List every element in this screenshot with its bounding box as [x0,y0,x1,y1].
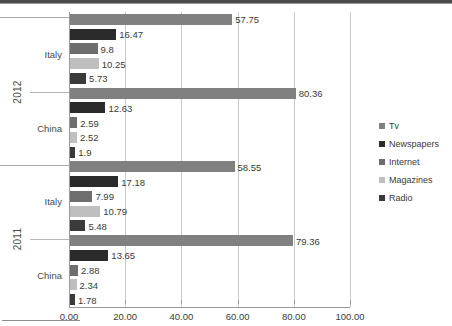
bar-value-label: 16.47 [119,29,143,40]
bar-2012-china-tv [70,88,296,99]
bar-2011-china-radio [70,294,75,305]
bar-chart: 2012ItalyChina2011ItalyChina 57.7516.479… [0,5,452,323]
year-group-2011: 2011 [0,165,69,314]
country-axis-label-china: China [37,270,62,281]
bar-2012-china-newspapers [70,102,105,113]
gridline [238,12,239,307]
bar-2012-italy-internet [70,43,98,54]
bar-value-label: 2.52 [80,132,99,143]
bar-2011-china-newspapers [70,250,108,261]
category-axis: 2012ItalyChina2011ItalyChina [0,17,69,312]
bar-value-label: 57.75 [235,14,259,25]
x-tick-label: 80.00 [282,311,306,322]
bar-value-label: 12.63 [108,102,132,113]
bar-value-label: 9.8 [101,43,114,54]
legend-label: Tv [389,121,399,131]
bar-2011-china-internet [70,265,78,276]
country-divider [30,92,69,93]
gridline [294,12,295,307]
x-tick-label: 100.00 [335,311,364,322]
country-axis-label-italy: Italy [45,196,62,207]
legend-swatch-icon [379,177,385,183]
bar-2011-italy-magazines [70,206,100,217]
country-axis-label-italy: Italy [45,48,62,59]
bar-value-label: 79.36 [296,235,320,246]
bar-value-label: 5.73 [89,73,108,84]
bar-2012-italy-newspapers [70,29,116,40]
bar-2012-italy-radio [70,73,86,84]
bar-value-label: 2.59 [80,117,99,128]
x-tick-mark [238,300,239,304]
bar-value-label: 1.9 [78,147,91,158]
legend-swatch-icon [379,141,385,147]
bar-2012-china-internet [70,117,77,128]
bar-2012-italy-tv [70,14,232,25]
bar-2011-italy-radio [70,220,85,231]
bar-value-label: 10.79 [103,206,127,217]
year-group-2012: 2012 [0,17,69,166]
bar-2012-china-radio [70,147,75,158]
legend-swatch-icon [379,159,385,165]
bar-2011-italy-tv [70,161,235,172]
legend-item-newspapers[interactable]: Newspapers [379,139,449,149]
bar-2011-italy-internet [70,191,92,202]
legend-item-radio[interactable]: Radio [379,193,449,203]
legend-item-internet[interactable]: Internet [379,157,449,167]
legend-item-magazines[interactable]: Magazines [379,175,449,185]
x-tick-mark [69,300,70,304]
legend-swatch-icon [379,195,385,201]
top-border-rule-secondary [0,3,452,4]
bar-value-label: 13.65 [111,250,135,261]
value-axis-line [69,12,70,307]
bar-2012-china-magazines [70,132,77,143]
gridline [350,12,351,307]
bar-value-label: 17.18 [121,176,145,187]
legend-label: Newspapers [389,139,439,149]
legend-label: Internet [389,157,420,167]
legend-label: Radio [389,193,413,203]
x-tick-label: 20.00 [113,311,137,322]
bar-value-label: 2.34 [80,279,99,290]
x-tick-label: 60.00 [226,311,250,322]
bar-2011-china-tv [70,235,293,246]
legend-label: Magazines [389,175,433,185]
country-axis-label-china: China [37,122,62,133]
legend-swatch-icon [379,123,385,129]
x-tick-label: 0.00 [60,311,79,322]
bar-value-label: 7.99 [95,191,114,202]
category-axis-line [69,307,350,308]
bar-value-label: 2.88 [81,265,100,276]
bar-2012-italy-magazines [70,58,99,69]
chart-legend: TvNewspapersInternetMagazinesRadio [379,121,449,211]
bar-value-label: 58.55 [238,161,262,172]
gridline [181,12,182,307]
bar-value-label: 80.36 [299,88,323,99]
year-axis-label: 2012 [12,80,23,103]
bar-2011-italy-newspapers [70,176,118,187]
x-tick-mark [181,300,182,304]
bar-value-label: 10.25 [102,58,126,69]
x-tick-mark [294,300,295,304]
bar-2011-china-magazines [70,279,77,290]
plot-area: 57.7516.479.810.255.7380.3612.632.592.52… [69,12,350,307]
gridline [125,12,126,307]
x-tick-mark [350,300,351,304]
bar-value-label: 1.78 [78,294,97,305]
x-tick-mark [125,300,126,304]
x-tick-label: 40.00 [170,311,194,322]
country-divider [30,239,69,240]
year-axis-label: 2011 [12,228,23,251]
legend-item-tv[interactable]: Tv [379,121,449,131]
bar-value-label: 5.48 [88,220,107,231]
